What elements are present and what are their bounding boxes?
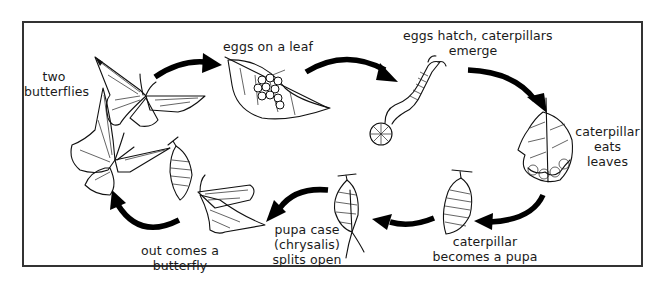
arrow-emerge-to-butterflies [110,190,179,227]
emerging-butterfly-icon [168,137,265,233]
label-chrysalis-splits: pupa case (chrysalis) splits open [272,222,342,267]
arrow-butterflies-to-eggs [155,53,222,77]
label-caterpillar-eats: caterpillar eats leaves [575,124,640,169]
arrow-pupa-to-split [372,214,434,230]
arrow-eating-to-pupa [474,195,543,230]
label-butterfly-emerges: out comes a butterfly [140,243,220,273]
label-becomes-pupa: caterpillar becomes a pupa [430,234,540,264]
arrow-hatch-to-eating [468,70,547,113]
butterfly-icon [95,57,205,126]
arrow-split-to-emerge [266,190,328,222]
arrow-eggs-to-hatch [306,59,398,82]
label-two-butterflies: two butterflies [24,69,84,99]
label-eggs-on-leaf: eggs on a leaf [218,39,318,54]
label-eggs-hatch: eggs hatch, caterpillars emerge [403,28,543,58]
chrysalis-icon [443,170,472,234]
butterfly-icon [71,88,170,195]
